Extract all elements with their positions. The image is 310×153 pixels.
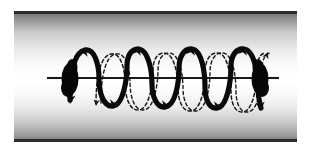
tube-top-edge [14, 11, 297, 14]
figure-root [0, 0, 310, 153]
tube-bottom-edge [14, 139, 297, 142]
helical-wave-figure [0, 0, 310, 153]
